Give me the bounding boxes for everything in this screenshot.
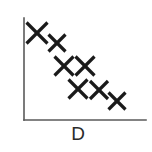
x-axis-label: D (2, 124, 152, 143)
scatter-plot-figure: D (0, 0, 152, 152)
data-point-marker (69, 80, 88, 99)
data-point-marker (109, 93, 126, 110)
data-point-marker (27, 23, 48, 44)
data-point-marker (76, 57, 95, 76)
data-markers-group (27, 23, 126, 110)
data-point-marker (90, 81, 108, 99)
data-point-marker (55, 57, 74, 76)
axes-group (24, 18, 146, 120)
data-point-marker (49, 35, 66, 52)
